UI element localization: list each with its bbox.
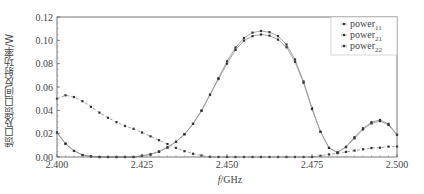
data-point <box>353 149 355 151</box>
data-point <box>260 33 262 35</box>
data-point <box>192 153 194 155</box>
data-point <box>234 49 236 51</box>
data-point <box>226 63 228 65</box>
data-point <box>183 150 185 152</box>
data-point <box>175 147 177 149</box>
data-point <box>64 143 66 145</box>
data-point <box>217 78 219 80</box>
x-axis-label-unit: /GHz <box>221 174 243 185</box>
data-point <box>302 82 304 84</box>
x-tick-label: 2.425 <box>131 159 154 170</box>
x-tick-label: 2.450 <box>216 159 239 170</box>
data-point <box>192 123 194 125</box>
data-point <box>319 131 321 133</box>
data-point <box>183 133 185 135</box>
data-point <box>379 120 381 122</box>
data-point <box>166 146 168 148</box>
data-point <box>277 35 279 37</box>
data-point <box>387 146 389 148</box>
data-point <box>277 39 279 41</box>
y-tick-label: 0.12 <box>36 12 54 23</box>
data-point <box>141 131 143 133</box>
data-point <box>251 32 253 34</box>
data-point <box>200 110 202 112</box>
legend-swatch-marker <box>343 45 345 47</box>
x-tick-label: 2.475 <box>301 159 324 170</box>
x-axis-label: f/GHz <box>200 174 260 185</box>
data-point <box>353 137 355 139</box>
data-point <box>345 146 347 148</box>
y-axis-label: 馈口及馈口间反射功率/W <box>2 20 18 160</box>
data-point <box>209 94 211 96</box>
data-point <box>149 135 151 137</box>
data-point <box>285 46 287 48</box>
data-point <box>149 153 151 155</box>
data-point <box>73 96 75 98</box>
legend-swatch-marker <box>343 23 345 25</box>
data-point <box>243 39 245 41</box>
data-point <box>328 147 330 149</box>
data-point <box>90 106 92 108</box>
data-point <box>107 117 109 119</box>
data-point <box>268 31 270 33</box>
data-point <box>98 112 100 114</box>
y-tick-label: 0.04 <box>36 105 54 116</box>
line-chart: 2.4002.4252.4502.4752.500 0.000.020.040.… <box>0 0 424 194</box>
data-point <box>370 122 372 124</box>
data-point <box>158 151 160 153</box>
data-point <box>336 152 338 154</box>
data-point <box>166 143 168 145</box>
data-point <box>294 61 296 63</box>
data-point <box>260 30 262 32</box>
series-markers-power22 <box>56 94 398 158</box>
data-point <box>73 150 75 152</box>
y-tick-label: 0.02 <box>36 128 54 139</box>
y-tick-label: 0.10 <box>36 35 54 46</box>
data-point <box>115 121 117 123</box>
data-point <box>379 147 381 149</box>
data-point <box>81 100 83 102</box>
data-point <box>362 128 364 130</box>
data-point <box>311 108 313 110</box>
data-point <box>285 43 287 45</box>
data-point <box>124 125 126 127</box>
data-point <box>234 46 236 48</box>
data-point <box>132 128 134 130</box>
legend: power11power21power22 <box>331 17 397 55</box>
data-point <box>370 147 372 149</box>
data-point <box>345 151 347 153</box>
data-point <box>64 94 66 96</box>
data-point <box>243 37 245 39</box>
data-point <box>362 148 364 150</box>
data-point <box>268 35 270 37</box>
x-tick-label: 2.500 <box>386 159 409 170</box>
data-point <box>175 141 177 143</box>
legend-swatch-marker <box>343 34 345 36</box>
data-point <box>387 124 389 126</box>
data-point <box>328 153 330 155</box>
y-axis-ticks: 0.000.020.040.060.080.100.12 <box>36 12 61 163</box>
data-point <box>158 139 160 141</box>
y-tick-label: 0.06 <box>36 82 54 93</box>
data-point <box>251 35 253 37</box>
y-tick-label: 0.00 <box>36 152 54 163</box>
y-tick-label: 0.08 <box>36 58 54 69</box>
